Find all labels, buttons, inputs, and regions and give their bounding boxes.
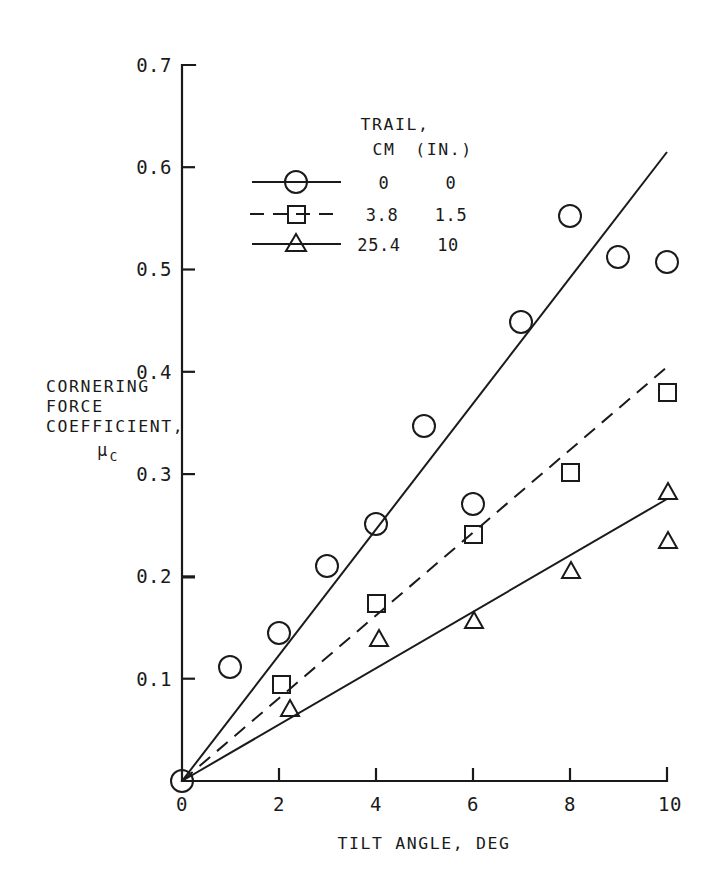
x-tick-label-4: 4 (370, 793, 382, 815)
data-point (562, 562, 580, 578)
y-tick-label-0.2: 0.2 (136, 565, 172, 587)
y-tick-label-0.3: 0.3 (136, 463, 172, 485)
y-axis-label-line1: CORNERING (46, 377, 150, 396)
data-point (268, 622, 290, 644)
data-point (510, 311, 532, 333)
legend-title: TRAIL, (360, 115, 429, 134)
x-tick-label-6: 6 (467, 793, 479, 815)
y-tick-label-0.7: 0.7 (136, 54, 172, 76)
series-points-trail-0cm (171, 205, 678, 792)
data-point (656, 251, 678, 273)
x-tick-label-8: 8 (564, 793, 576, 815)
y-axis-label-symbol: μC (97, 440, 119, 464)
data-point (370, 630, 388, 646)
data-point (559, 205, 581, 227)
legend: TRAIL, CM (IN.) 0 0 3.8 1.5 25.4 (250, 115, 473, 255)
legend-item-trail-3.8cm: 3.8 1.5 (250, 205, 467, 225)
x-tick-label-10: 10 (658, 793, 682, 815)
data-point (316, 555, 338, 577)
fit-line-trail-25.4cm (182, 499, 667, 781)
legend-item-trail-25.4cm: 25.4 10 (252, 234, 459, 255)
x-tick-labels: 0 2 4 6 8 10 (176, 793, 682, 815)
legend-value-in: 1.5 (435, 205, 468, 225)
plot-area (171, 152, 678, 792)
data-point (659, 483, 677, 499)
y-tick-labels: 0.7 0.6 0.5 0.4 0.3 0.2 0.1 (136, 54, 172, 690)
data-point (607, 246, 629, 268)
y-axis-label-line2: FORCE (46, 397, 104, 416)
fit-line-trail-3.8cm (182, 367, 667, 781)
y-tick-label-0.1: 0.1 (136, 668, 172, 690)
x-axis-line (182, 768, 667, 781)
legend-col-header-cm: CM (372, 140, 395, 159)
legend-value-in: 10 (437, 235, 459, 255)
data-point (562, 464, 579, 481)
x-axis-label: TILT ANGLE, DEG (337, 834, 510, 853)
legend-value-in: 0 (446, 173, 457, 193)
y-tick-label-0.6: 0.6 (136, 156, 172, 178)
figure-container: 0.7 0.6 0.5 0.4 0.3 0.2 0.1 0 2 4 6 8 10… (0, 0, 717, 878)
x-tick-label-0: 0 (176, 793, 188, 815)
legend-value-cm: 25.4 (357, 235, 400, 255)
triangle-marker-icon (286, 234, 306, 251)
data-point (465, 526, 482, 543)
x-tick-label-2: 2 (273, 793, 285, 815)
y-axis-label-line3: COEFFICIENT, (46, 417, 184, 436)
cornering-force-chart: 0.7 0.6 0.5 0.4 0.3 0.2 0.1 0 2 4 6 8 10… (0, 0, 717, 878)
x-tick-marks (279, 768, 570, 781)
data-point (365, 513, 387, 535)
series-points-trail-25.4cm (281, 483, 677, 716)
legend-col-header-in: (IN.) (415, 140, 473, 159)
legend-value-cm: 3.8 (366, 205, 399, 225)
legend-item-trail-0cm: 0 0 (252, 171, 456, 193)
axes-group (182, 65, 667, 781)
data-point (659, 532, 677, 548)
fit-line-trail-0cm (182, 152, 667, 781)
y-tick-label-0.5: 0.5 (136, 258, 172, 280)
y-axis-label: CORNERING FORCE COEFFICIENT, μC (46, 377, 184, 464)
data-point (413, 415, 435, 437)
data-point (462, 493, 484, 515)
data-point (659, 384, 676, 401)
series-points-trail-3.8cm (273, 384, 676, 693)
data-point (219, 656, 241, 678)
legend-value-cm: 0 (379, 173, 390, 193)
